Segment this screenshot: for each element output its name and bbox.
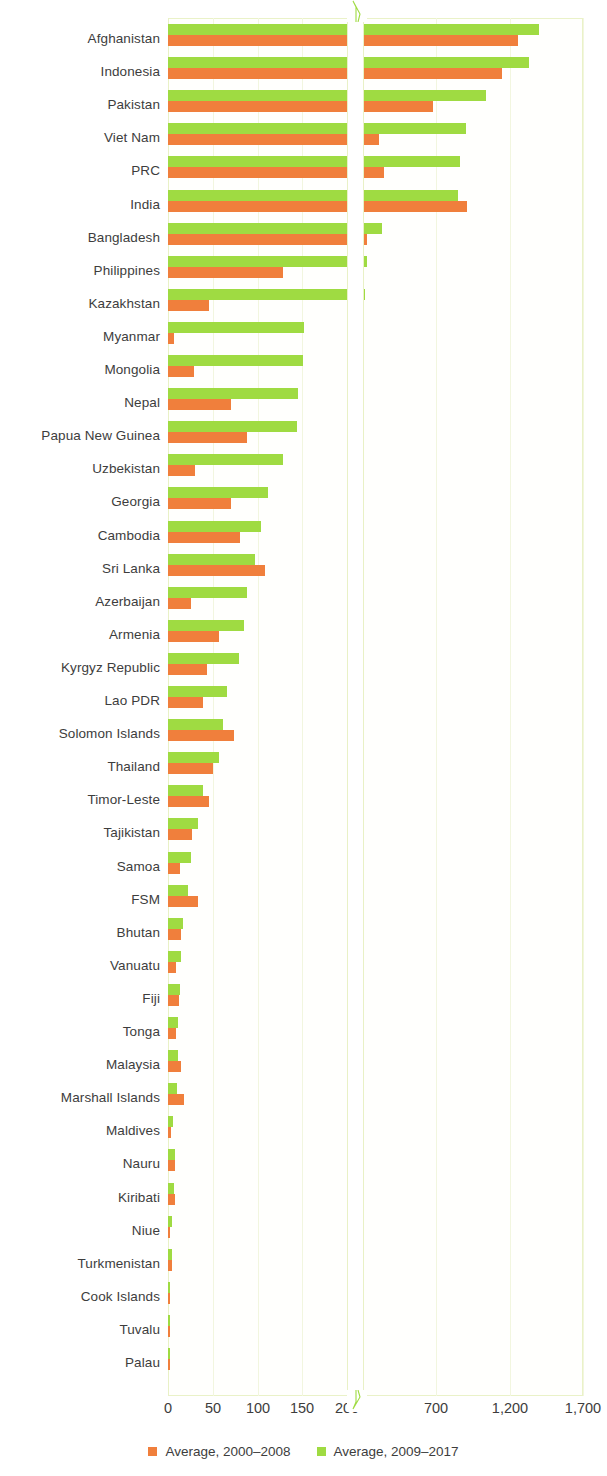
bar-segment bbox=[168, 101, 347, 112]
bar-segment bbox=[363, 223, 382, 234]
category-label: Philippines bbox=[0, 260, 160, 281]
bar-row: Indonesia bbox=[0, 55, 607, 88]
bar-row: Sri Lanka bbox=[0, 552, 607, 585]
bar-segment bbox=[168, 653, 239, 664]
category-label: Pakistan bbox=[0, 94, 160, 115]
bar-segment bbox=[168, 35, 347, 46]
bar-segment bbox=[168, 366, 194, 377]
bar-segment bbox=[168, 829, 192, 840]
category-label: Palau bbox=[0, 1352, 160, 1373]
bar-segment bbox=[168, 487, 268, 498]
bar-segment bbox=[168, 1160, 175, 1171]
bar-segment bbox=[168, 1183, 174, 1194]
bar-segment bbox=[168, 587, 247, 598]
bar-segment bbox=[168, 1017, 178, 1028]
bar-segment bbox=[168, 598, 191, 609]
category-label: Kazakhstan bbox=[0, 293, 160, 314]
bar-row: Solomon Islands bbox=[0, 717, 607, 750]
bar-segment bbox=[168, 1326, 170, 1337]
bar-segment bbox=[168, 1216, 172, 1227]
category-label: FSM bbox=[0, 889, 160, 910]
bar-segment bbox=[168, 234, 347, 245]
bar-segment bbox=[168, 730, 234, 741]
bar-segment bbox=[168, 697, 203, 708]
bar-row: Georgia bbox=[0, 485, 607, 518]
x-axis-tick-label: 0 bbox=[164, 1400, 172, 1416]
category-label: Kiribati bbox=[0, 1187, 160, 1208]
x-axis-tick-label: 50 bbox=[205, 1400, 221, 1416]
bar-row: Papua New Guinea bbox=[0, 419, 607, 452]
bar-row: Malaysia bbox=[0, 1048, 607, 1081]
bar-segment bbox=[168, 201, 347, 212]
bar-segment bbox=[168, 1061, 181, 1072]
bar-row: Fiji bbox=[0, 982, 607, 1015]
category-label: Tuvalu bbox=[0, 1319, 160, 1340]
bar-segment bbox=[363, 68, 502, 79]
horizontal-bar-chart: AfghanistanIndonesiaPakistanViet NamPRCI… bbox=[0, 0, 607, 1476]
bar-row: Uzbekistan bbox=[0, 452, 607, 485]
bar-segment bbox=[168, 785, 203, 796]
bar-segment bbox=[168, 962, 176, 973]
category-label: Armenia bbox=[0, 624, 160, 645]
bar-segment bbox=[363, 167, 384, 178]
legend-item-1[interactable]: Average, 2000–2008 bbox=[148, 1444, 290, 1459]
bar-segment bbox=[363, 190, 458, 201]
bar-segment bbox=[168, 1227, 170, 1238]
bar-segment bbox=[168, 355, 303, 366]
bar-segment bbox=[168, 267, 283, 278]
category-label: Kyrgyz Republic bbox=[0, 657, 160, 678]
category-label: Indonesia bbox=[0, 61, 160, 82]
bar-row: Maldives bbox=[0, 1114, 607, 1147]
bar-row: Samoa bbox=[0, 850, 607, 883]
bar-segment bbox=[168, 333, 174, 344]
category-label: Solomon Islands bbox=[0, 723, 160, 744]
category-label: Uzbekistan bbox=[0, 458, 160, 479]
bar-segment bbox=[168, 1116, 173, 1127]
category-label: Georgia bbox=[0, 491, 160, 512]
legend-label: Average, 2000–2008 bbox=[165, 1444, 290, 1459]
bar-row: Afghanistan bbox=[0, 22, 607, 55]
bar-row: Kiribati bbox=[0, 1181, 607, 1214]
bar-segment bbox=[168, 322, 304, 333]
bar-segment bbox=[168, 1315, 170, 1326]
bar-row: Turkmenistan bbox=[0, 1247, 607, 1280]
bar-row: Thailand bbox=[0, 750, 607, 783]
bar-segment bbox=[168, 554, 255, 565]
bar-row: Marshall Islands bbox=[0, 1081, 607, 1114]
bar-segment bbox=[363, 35, 518, 46]
bar-segment bbox=[363, 134, 379, 145]
category-label: Mongolia bbox=[0, 359, 160, 380]
bar-segment bbox=[168, 565, 265, 576]
bar-segment bbox=[168, 1028, 176, 1039]
bar-segment bbox=[168, 465, 195, 476]
legend-swatch-icon bbox=[317, 1447, 326, 1456]
bar-segment bbox=[168, 719, 223, 730]
bar-segment bbox=[168, 432, 247, 443]
category-label: Fiji bbox=[0, 988, 160, 1009]
bar-row: Tonga bbox=[0, 1015, 607, 1048]
bar-segment bbox=[168, 918, 183, 929]
category-label: Cook Islands bbox=[0, 1286, 160, 1307]
legend-item-2[interactable]: Average, 2009–2017 bbox=[317, 1444, 459, 1459]
category-label: Papua New Guinea bbox=[0, 425, 160, 446]
bar-segment bbox=[363, 24, 539, 35]
category-label: Niue bbox=[0, 1220, 160, 1241]
bar-segment bbox=[168, 24, 347, 35]
bar-row: Myanmar bbox=[0, 320, 607, 353]
bar-row: Kyrgyz Republic bbox=[0, 651, 607, 684]
bar-segment bbox=[168, 289, 347, 300]
bar-segment bbox=[168, 167, 347, 178]
bar-row: Cook Islands bbox=[0, 1280, 607, 1313]
bar-segment bbox=[168, 984, 180, 995]
bar-row: Palau bbox=[0, 1346, 607, 1379]
category-label: Maldives bbox=[0, 1120, 160, 1141]
category-label: Afghanistan bbox=[0, 28, 160, 49]
category-label: Samoa bbox=[0, 856, 160, 877]
x-axis-tick-label: 1,200 bbox=[492, 1400, 528, 1416]
legend-label: Average, 2009–2017 bbox=[334, 1444, 459, 1459]
bar-segment bbox=[168, 421, 297, 432]
bar-segment bbox=[168, 256, 347, 267]
bar-segment bbox=[168, 57, 347, 68]
bar-segment bbox=[363, 156, 460, 167]
category-label: Viet Nam bbox=[0, 127, 160, 148]
